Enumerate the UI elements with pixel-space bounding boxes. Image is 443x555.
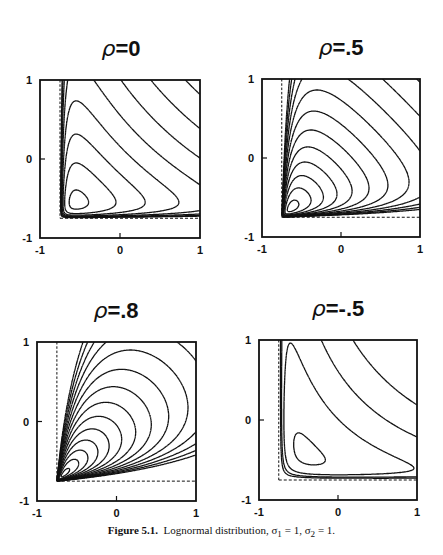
- rho-value: =-.5: [326, 296, 365, 321]
- contour-lines: [57, 342, 196, 481]
- panel-rho-neg0.5: ρ=-.5-101-101: [241, 296, 420, 518]
- panel-title: ρ=.8: [93, 298, 138, 323]
- x-tick-label: 1: [193, 507, 199, 519]
- rho-symbol: ρ: [318, 35, 332, 60]
- contour-line: [61, 80, 200, 217]
- rho-symbol: ρ: [312, 296, 326, 321]
- panel-rho-0.5: ρ=.5-101-101: [244, 35, 423, 255]
- contour-line: [287, 200, 299, 212]
- x-tick-label: -1: [35, 244, 45, 256]
- contour-line: [283, 162, 337, 216]
- x-tick-label: -1: [32, 507, 42, 519]
- contour-line: [62, 101, 179, 216]
- y-tick-label: 0: [26, 153, 32, 165]
- rho-value: =0: [115, 36, 140, 61]
- x-tick-label: 0: [335, 506, 341, 518]
- contour-line: [282, 340, 418, 477]
- contour-lines: [61, 80, 200, 218]
- figure: ρ=0-101-101ρ=.5-101-101ρ=.8-101-101ρ=-.5…: [0, 0, 443, 555]
- contour-line: [294, 433, 326, 465]
- y-tick-label: 1: [248, 73, 254, 85]
- panel-rho-0.8: ρ=.8-101-101: [19, 298, 199, 519]
- contour-line: [63, 134, 145, 215]
- panel-rho-0: ρ=0-101-101: [22, 36, 203, 256]
- y-tick-label: -1: [19, 495, 29, 507]
- contour-line: [61, 80, 200, 217]
- panel-title: ρ=-.5: [312, 296, 365, 321]
- y-tick-label: 1: [26, 74, 32, 86]
- x-tick-label: 1: [417, 243, 423, 255]
- y-tick-label: -1: [241, 494, 251, 506]
- rho-symbol: ρ: [93, 298, 107, 323]
- rho-symbol: ρ: [101, 36, 115, 61]
- caption-label: Figure 5.1.: [108, 524, 158, 536]
- x-tick-label: -1: [254, 506, 264, 518]
- contour-line: [282, 90, 409, 217]
- x-tick-label: 1: [197, 244, 203, 256]
- y-tick-label: -1: [244, 231, 254, 243]
- y-tick-label: 1: [245, 334, 251, 346]
- x-tick-label: 0: [113, 507, 119, 519]
- y-tick-label: 0: [23, 416, 29, 428]
- contour-line: [283, 147, 352, 216]
- contour-lines: [281, 340, 418, 478]
- caption-text: Lognormal distribution, σ: [164, 524, 278, 536]
- y-tick-label: 1: [23, 336, 29, 348]
- contour-line: [62, 80, 200, 217]
- contour-line: [284, 343, 414, 475]
- y-tick-label: -1: [22, 232, 32, 244]
- rho-value: =.8: [107, 298, 138, 323]
- caption-tail: = 1.: [315, 524, 335, 536]
- contour-line: [69, 190, 88, 209]
- x-tick-label: -1: [257, 243, 267, 255]
- panel-title: ρ=0: [101, 36, 140, 61]
- y-tick-label: 0: [245, 414, 251, 426]
- panel-title: ρ=.5: [318, 35, 363, 60]
- caption-mid: = 1, σ: [282, 524, 311, 536]
- contour-lines: [282, 79, 420, 217]
- rho-value: =.5: [332, 35, 363, 60]
- figure-caption: Figure 5.1. Lognormal distribution, σ1 =…: [0, 524, 443, 539]
- x-tick-label: 0: [117, 244, 123, 256]
- contour-line: [61, 80, 200, 218]
- x-tick-label: 0: [338, 243, 344, 255]
- x-tick-label: 1: [414, 506, 420, 518]
- contour-line: [65, 163, 116, 214]
- y-tick-label: 0: [248, 152, 254, 164]
